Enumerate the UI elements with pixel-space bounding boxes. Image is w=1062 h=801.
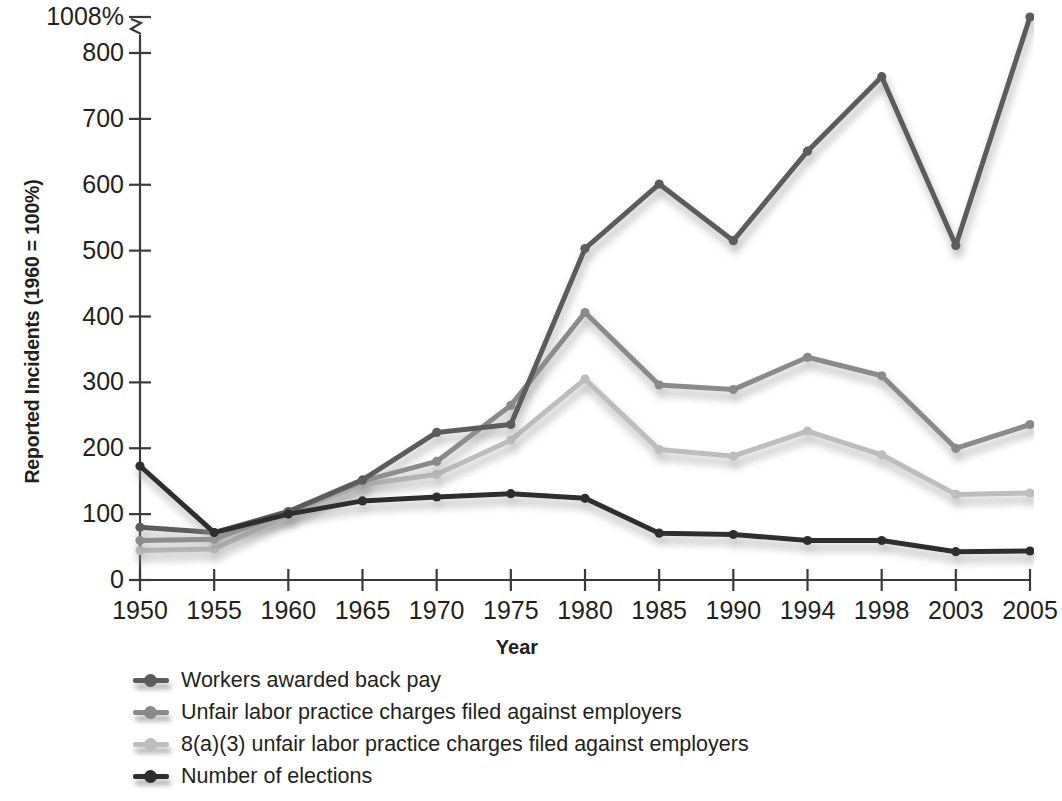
- legend-label: Unfair labor practice charges filed agai…: [181, 700, 682, 725]
- legend-label: Number of elections: [181, 764, 372, 789]
- legend-marker-icon: [131, 672, 171, 688]
- legend-item: Number of elections: [131, 760, 749, 792]
- legend-marker-icon: [131, 736, 171, 752]
- legend-label: 8(a)(3) unfair labor practice charges fi…: [181, 732, 749, 757]
- legend-item: Workers awarded back pay: [131, 664, 749, 696]
- series-line: [135, 461, 1034, 556]
- legend-item: 8(a)(3) unfair labor practice charges fi…: [131, 728, 749, 760]
- series-line: [135, 375, 1034, 556]
- legend-marker-icon: [131, 768, 171, 784]
- series-line: [135, 308, 1034, 545]
- legend-label: Workers awarded back pay: [181, 668, 441, 693]
- legend-item: Unfair labor practice charges filed agai…: [131, 696, 749, 728]
- series-line: [135, 12, 1034, 537]
- legend-marker-icon: [131, 704, 171, 720]
- chart-legend: Workers awarded back payUnfair labor pra…: [131, 664, 749, 792]
